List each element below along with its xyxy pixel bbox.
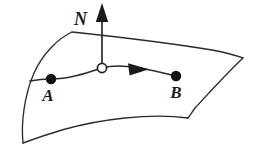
surface-patch <box>22 32 243 143</box>
surface-right-edge <box>188 58 243 118</box>
normal-label: N <box>73 9 88 29</box>
origin-open-circle-icon <box>97 63 106 72</box>
displacement-vector-group <box>128 63 149 75</box>
point-a-dot <box>46 74 56 84</box>
point-b-dot <box>171 71 181 81</box>
surface-normal-diagram: Tangent displacement on a curved surface… <box>0 0 260 146</box>
surface-top-edge <box>72 32 243 58</box>
point-b-label: B <box>169 83 181 102</box>
point-a-label: A <box>41 86 53 105</box>
right-arrow-icon <box>128 63 149 75</box>
surface-bottom-edge <box>23 116 188 143</box>
up-arrow-icon <box>96 3 108 22</box>
